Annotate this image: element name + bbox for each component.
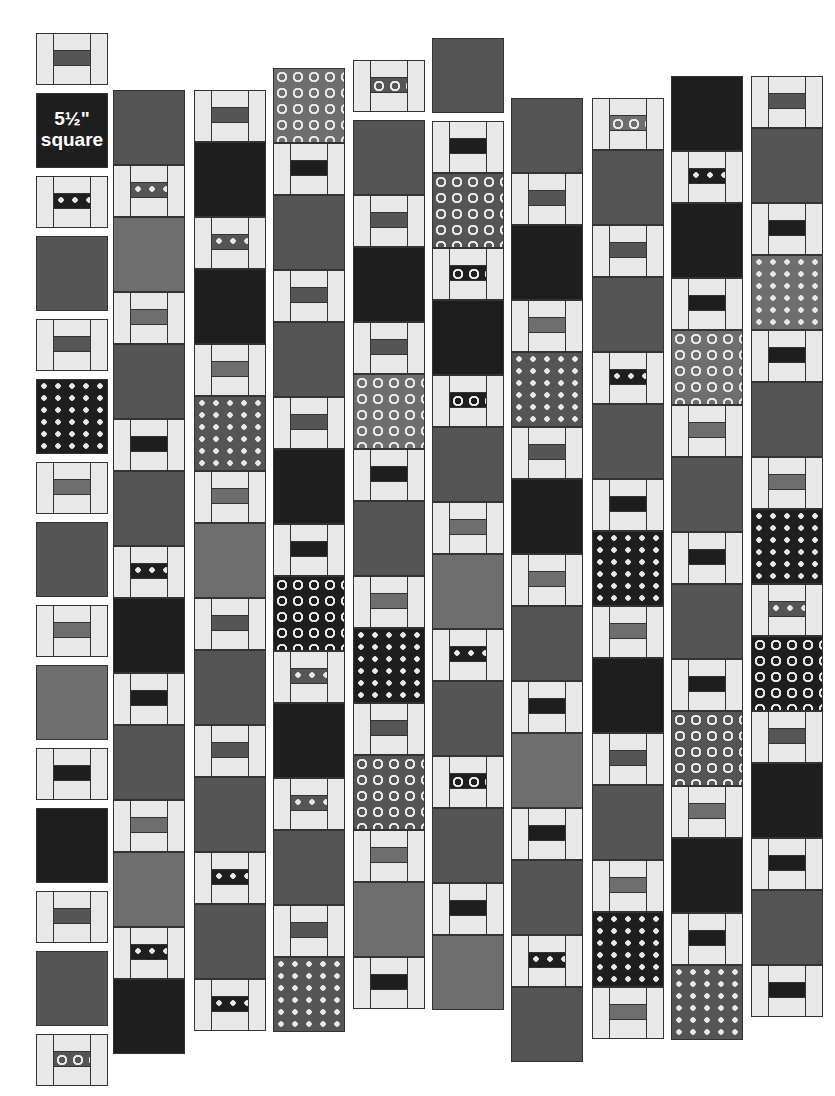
- frame-left-strip: [195, 472, 212, 522]
- frame-left-strip: [433, 884, 450, 934]
- frame-center-strip: [291, 668, 327, 684]
- frame-right-strip: [565, 936, 582, 986]
- frame-center-strip: [212, 234, 248, 250]
- frame-right-strip: [486, 503, 503, 553]
- frame-left-strip: [195, 980, 212, 1030]
- frame-right-strip: [248, 599, 265, 649]
- frame-center-strip: [131, 436, 167, 452]
- frame-right-strip: [805, 712, 822, 762]
- framed-block: [592, 606, 664, 658]
- frame-center-strip: [450, 646, 486, 662]
- framed-block: [194, 979, 266, 1031]
- frame-right-strip: [167, 166, 184, 216]
- square-block: [273, 703, 345, 778]
- frame-center-strip: [291, 414, 327, 430]
- quilt-column: [511, 98, 583, 1062]
- framed-block: [432, 756, 504, 808]
- framed-block: [751, 965, 823, 1017]
- frame-left-strip: [354, 61, 371, 111]
- frame-left-strip: [593, 861, 610, 911]
- framed-block: [751, 711, 823, 763]
- framed-block: [432, 883, 504, 935]
- framed-block: [511, 808, 583, 860]
- square-block: [113, 217, 185, 292]
- square-block: [671, 838, 743, 913]
- frame-left-strip: [433, 376, 450, 426]
- frame-left-strip: [195, 91, 212, 141]
- frame-left-strip: [752, 458, 769, 508]
- frame-right-strip: [805, 204, 822, 254]
- framed-block: [273, 270, 345, 322]
- frame-left-strip: [37, 749, 54, 799]
- framed-block: [36, 176, 108, 228]
- framed-block: [751, 76, 823, 128]
- framed-block: [432, 375, 504, 427]
- square-block: [432, 808, 504, 883]
- square-block: [432, 935, 504, 1010]
- frame-right-strip: [248, 91, 265, 141]
- frame-left-strip: [37, 892, 54, 942]
- framed-block: [194, 90, 266, 142]
- square-block: [432, 681, 504, 756]
- frame-center-strip: [450, 265, 486, 281]
- frame-center-strip: [291, 795, 327, 811]
- frame-center-strip: [610, 369, 646, 385]
- frame-center-strip: [769, 601, 805, 617]
- frame-center-strip: [131, 817, 167, 833]
- frame-right-strip: [805, 331, 822, 381]
- frame-center-strip: [131, 182, 167, 198]
- frame-left-strip: [274, 271, 291, 321]
- frame-center-strip: [689, 549, 725, 565]
- frame-center-strip: [689, 930, 725, 946]
- frame-right-strip: [248, 980, 265, 1030]
- frame-left-strip: [593, 226, 610, 276]
- frame-right-strip: [407, 196, 424, 246]
- frame-center-strip: [291, 160, 327, 176]
- frame-center-strip: [450, 900, 486, 916]
- square-block: [353, 882, 425, 957]
- framed-block: [592, 98, 664, 150]
- frame-center-strip: [371, 212, 407, 228]
- frame-left-strip: [752, 331, 769, 381]
- square-block: [353, 628, 425, 703]
- frame-right-strip: [725, 660, 742, 710]
- frame-left-strip: [354, 323, 371, 373]
- frame-right-strip: [167, 547, 184, 597]
- quilt-column: [273, 68, 345, 1032]
- square-block: [273, 322, 345, 397]
- framed-block: [671, 278, 743, 330]
- frame-center-strip: [529, 444, 565, 460]
- framed-block: [751, 330, 823, 382]
- frame-center-strip: [689, 295, 725, 311]
- framed-block: [671, 913, 743, 965]
- frame-right-strip: [90, 1035, 107, 1085]
- frame-center-strip: [54, 479, 90, 495]
- frame-right-strip: [248, 726, 265, 776]
- quilt-column: [113, 90, 185, 1054]
- framed-block: [511, 427, 583, 479]
- square-block: [113, 979, 185, 1054]
- square-block: [432, 300, 504, 375]
- frame-right-strip: [646, 226, 663, 276]
- square-block: [511, 733, 583, 808]
- square-block: [592, 912, 664, 987]
- framed-block: [751, 584, 823, 636]
- frame-center-strip: [610, 877, 646, 893]
- frame-right-strip: [167, 293, 184, 343]
- frame-left-strip: [593, 988, 610, 1038]
- framed-block: [353, 195, 425, 247]
- frame-left-strip: [37, 34, 54, 84]
- frame-center-strip: [529, 698, 565, 714]
- framed-block: [671, 659, 743, 711]
- square-block: [273, 449, 345, 524]
- frame-right-strip: [486, 630, 503, 680]
- framed-block: [273, 397, 345, 449]
- frame-right-strip: [248, 345, 265, 395]
- frame-left-strip: [354, 450, 371, 500]
- framed-block: [113, 800, 185, 852]
- frame-center-strip: [689, 676, 725, 692]
- square-block: [592, 658, 664, 733]
- square-block: [432, 173, 504, 248]
- frame-center-strip: [54, 765, 90, 781]
- frame-center-strip: [212, 742, 248, 758]
